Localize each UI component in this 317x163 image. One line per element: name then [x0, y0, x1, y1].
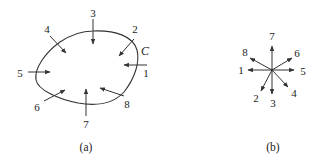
arrow-label-b-5: 5	[300, 66, 306, 77]
arrow-b-4-icon	[272, 70, 288, 87]
arrow-label-b-7: 7	[269, 31, 275, 42]
arrow-a-2-icon	[119, 39, 134, 56]
arrow-b-2-icon	[261, 70, 272, 91]
arrow-label-a-6: 6	[34, 102, 40, 113]
curve-label-c: C	[141, 45, 149, 57]
arrow-label-b-8: 8	[242, 47, 248, 58]
caption-b: (b)	[266, 142, 279, 154]
arrow-label-b-1: 1	[238, 65, 244, 76]
arrow-b-6-icon	[272, 58, 292, 70]
arrow-b-8-icon	[250, 58, 272, 70]
arrow-label-a-7: 7	[83, 119, 89, 130]
arrow-a-4-icon	[50, 36, 66, 53]
arrow-label-a-2: 2	[132, 24, 138, 35]
arrow-label-b-6: 6	[294, 48, 300, 59]
caption-a: (a)	[80, 142, 93, 154]
closed-curve-c	[36, 31, 138, 104]
star-center-point	[271, 69, 273, 71]
arrow-label-a-1: 1	[143, 68, 149, 79]
arrow-label-a-4: 4	[44, 24, 50, 35]
arrow-label-a-3: 3	[90, 8, 96, 19]
arrow-label-b-4: 4	[291, 88, 297, 99]
arrow-label-a-5: 5	[17, 68, 23, 79]
arrow-label-b-3: 3	[270, 98, 276, 109]
arrow-label-b-2: 2	[253, 93, 259, 104]
arrow-a-8-icon	[100, 88, 124, 96]
arrow-label-a-8: 8	[124, 99, 130, 110]
